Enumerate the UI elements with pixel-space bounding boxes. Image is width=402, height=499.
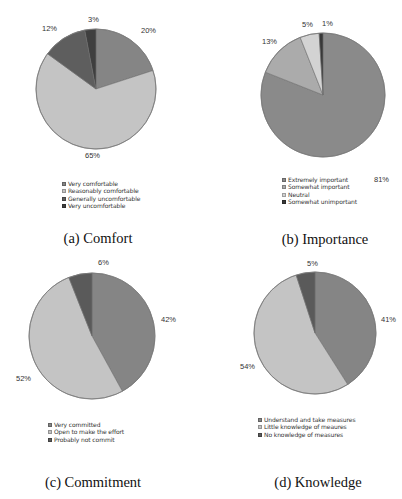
slice-percentage-label: 54%	[240, 362, 255, 371]
legend-swatch-icon	[258, 425, 262, 429]
legend-label: Little knowledge of meaures	[264, 423, 347, 430]
legend-swatch-icon	[258, 433, 262, 437]
slice-percentage-label: 5%	[307, 259, 318, 268]
caption-importance: (b) Importance	[282, 231, 369, 248]
legend-item: Understand and take measures	[258, 416, 355, 423]
legend-swatch-icon	[258, 418, 262, 422]
slice-percentage-label: 41%	[381, 315, 396, 324]
legend-item: Little knowledge of meaures	[258, 423, 355, 430]
caption-commitment: (c) Commitment	[45, 474, 141, 491]
legend-knowledge: Understand and take measuresLittle knowl…	[258, 416, 355, 438]
caption-knowledge: (d) Knowledge	[274, 474, 361, 491]
caption-comfort: (a) Comfort	[64, 230, 133, 247]
legend-label: Understand and take measures	[264, 416, 355, 423]
legend-label: No knowledge of measures	[264, 431, 343, 438]
legend-item: No knowledge of measures	[258, 431, 355, 438]
